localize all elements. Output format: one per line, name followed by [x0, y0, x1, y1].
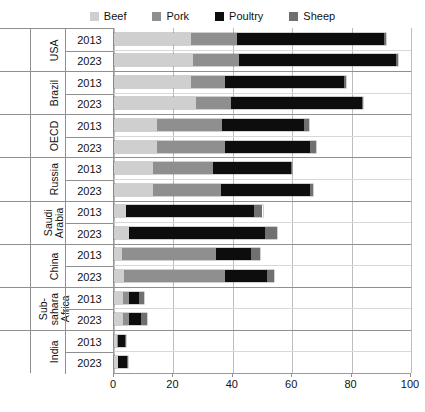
x-tick-label: 80 [344, 378, 356, 390]
bar-segment-poultry [222, 119, 304, 131]
row-separator [114, 308, 411, 309]
bar-segment-sheep [139, 292, 143, 304]
category-group-russia: Russia20132023 [0, 157, 113, 200]
bar-saudi-arabia-2023 [114, 227, 277, 239]
bar-segment-beef [114, 119, 157, 131]
category-group-brazil: Brazil20132023 [0, 71, 113, 114]
year-separator [65, 309, 113, 310]
bar-segment-sheep [251, 248, 259, 260]
legend-swatch-pork-icon [152, 12, 161, 21]
bar-segment-beef [114, 162, 153, 174]
year-label-2023: 2023 [65, 51, 113, 73]
tick-mark [232, 373, 233, 377]
bar-sub-sahara-africa-2013 [114, 292, 144, 304]
legend-item-sheep: Sheep [289, 11, 335, 22]
year-separator [65, 137, 113, 138]
x-tick-label: 0 [110, 378, 116, 390]
year-separator [65, 266, 113, 267]
bar-segment-pork [157, 119, 222, 131]
legend-swatch-sheep-icon [289, 12, 298, 21]
year-label-2023: 2023 [65, 94, 113, 116]
bar-segment-poultry [225, 76, 344, 88]
bar-segment-poultry [129, 292, 139, 304]
group-separator [1, 157, 411, 158]
x-tick-label: 40 [226, 378, 238, 390]
year-label-2023: 2023 [65, 266, 113, 288]
legend-label: Poultry [229, 11, 263, 22]
category-group-usa: USA20132023 [0, 28, 113, 71]
group-separator [1, 201, 411, 202]
bar-segment-pork [193, 54, 239, 66]
bar-segment-poultry [225, 141, 310, 153]
bar-segment-pork [153, 162, 214, 174]
bar-russia-2013 [114, 162, 292, 174]
bar-segment-sheep [384, 33, 385, 45]
bar-segment-poultry [216, 248, 252, 260]
year-label-2023: 2023 [65, 137, 113, 159]
year-separator [65, 352, 113, 353]
bar-segment-sheep [127, 356, 128, 368]
bar-segment-sheep [267, 270, 274, 282]
bar-segment-sheep [304, 119, 308, 131]
tick-mark [351, 373, 352, 377]
year-label-2013: 2013 [65, 288, 113, 310]
bar-segment-poultry [237, 33, 384, 45]
group-separator [1, 71, 411, 72]
row-separator [114, 136, 411, 137]
year-label-2023: 2023 [65, 180, 113, 202]
legend-swatch-poultry-icon [215, 12, 224, 21]
bar-china-2023 [114, 270, 274, 282]
row-separator [114, 265, 411, 266]
row-separator [114, 50, 411, 51]
bar-oecd-2013 [114, 119, 309, 131]
year-label-2023: 2023 [65, 223, 113, 245]
bar-segment-poultry [221, 184, 310, 196]
chart-legend: BeefPorkPoultrySheep [0, 6, 425, 26]
group-separator [1, 287, 411, 288]
row-separator [114, 93, 411, 94]
bar-segment-sheep [344, 76, 345, 88]
category-group-india: India20132023 [0, 330, 113, 373]
bar-china-2013 [114, 248, 260, 260]
bar-oecd-2023 [114, 141, 316, 153]
year-separator [65, 180, 113, 181]
bar-segment-poultry [118, 356, 126, 368]
bar-segment-beef [114, 97, 196, 109]
bar-india-2013 [114, 335, 126, 347]
bar-segment-sheep [265, 227, 277, 239]
legend-item-pork: Pork [152, 11, 189, 22]
bar-segment-pork [157, 141, 225, 153]
tick-mark [113, 373, 114, 377]
row-separator [114, 222, 411, 223]
bar-india-2023 [114, 356, 128, 368]
bar-segment-beef [114, 292, 123, 304]
category-group-sub-sahara-africa: Sub- sahara Africa20132023 [0, 287, 113, 330]
bar-segment-sheep [291, 162, 293, 174]
bar-segment-sheep [254, 205, 263, 217]
year-separator [65, 223, 113, 224]
year-label-2013: 2013 [65, 29, 113, 51]
bar-segment-pork [122, 248, 216, 260]
gridline [411, 28, 412, 373]
tick-mark [172, 373, 173, 377]
bar-brazil-2013 [114, 76, 346, 88]
bar-usa-2023 [114, 54, 398, 66]
bar-segment-sheep [141, 313, 146, 325]
legend-swatch-beef-icon [90, 12, 99, 21]
row-separator [114, 351, 411, 352]
bar-segment-pork [196, 97, 232, 109]
bar-russia-2023 [114, 184, 313, 196]
legend-label: Beef [104, 11, 127, 22]
bar-segment-pork [153, 184, 221, 196]
tick-mark [291, 373, 292, 377]
bar-segment-beef [114, 141, 157, 153]
year-separator [65, 51, 113, 52]
year-label-2023: 2023 [65, 352, 113, 374]
bar-segment-sheep [396, 54, 397, 66]
bar-segment-poultry [129, 313, 141, 325]
bar-segment-sheep [310, 141, 316, 153]
value-axis: 020406080100 [0, 373, 425, 393]
bar-segment-pork [191, 76, 225, 88]
bar-segment-beef [114, 248, 122, 260]
tick-mark [410, 373, 411, 377]
